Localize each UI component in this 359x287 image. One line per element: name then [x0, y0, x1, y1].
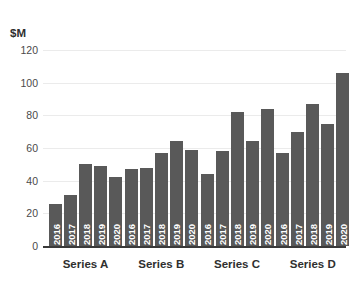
y-axis-tick-label: 120	[4, 44, 38, 56]
bar-year-label: 2020	[185, 224, 198, 245]
bar[interactable]: 2017	[216, 151, 229, 246]
bar[interactable]: 2020	[109, 177, 122, 246]
bar-year-label: 2019	[94, 224, 107, 245]
bar[interactable]: 2018	[155, 153, 168, 246]
bar[interactable]: 2020	[336, 73, 349, 246]
bar-year-label: 2016	[276, 224, 289, 245]
y-axis-tick-label: 60	[4, 142, 38, 154]
bar[interactable]: 2016	[201, 174, 214, 246]
bar[interactable]: 2016	[49, 204, 62, 246]
y-axis-tick-label: 40	[4, 175, 38, 187]
bar[interactable]: 2017	[291, 132, 304, 246]
bar-group: 20162017201820192020	[276, 50, 349, 246]
bar-year-label: 2020	[109, 224, 122, 245]
bar-year-label: 2018	[79, 224, 92, 245]
bar[interactable]: 2019	[170, 141, 183, 246]
bar-year-label: 2017	[291, 224, 304, 245]
bar-year-label: 2019	[246, 224, 259, 245]
group-label: Series D	[290, 258, 336, 270]
y-axis-tick-label: 80	[4, 109, 38, 121]
bar[interactable]: 2016	[125, 169, 138, 246]
bar[interactable]: 2017	[140, 168, 153, 246]
bar-year-label: 2018	[231, 224, 244, 245]
bar-year-label: 2020	[261, 224, 274, 245]
bar[interactable]: 2020	[261, 109, 274, 246]
bar-group: 20162017201820192020	[49, 50, 122, 246]
bar-year-label: 2019	[321, 224, 334, 245]
x-axis-baseline	[43, 246, 346, 248]
bar-year-label: 2017	[140, 224, 153, 245]
bar-year-label: 2018	[306, 224, 319, 245]
plot-area: 2016201720182019202020162017201820192020…	[43, 50, 346, 246]
bar[interactable]: 2016	[276, 153, 289, 246]
group-label: Series C	[214, 258, 260, 270]
bar-group: 20162017201820192020	[201, 50, 274, 246]
group-label: Series A	[63, 258, 109, 270]
bar-year-label: 2016	[125, 224, 138, 245]
bar-year-label: 2019	[170, 224, 183, 245]
bar[interactable]: 2019	[94, 166, 107, 246]
bar[interactable]: 2018	[306, 104, 319, 246]
bar-year-label: 2017	[64, 224, 77, 245]
y-axis-tick-label: 0	[4, 240, 38, 252]
bar[interactable]: 2019	[246, 141, 259, 246]
bar-year-label: 2016	[201, 224, 214, 245]
y-axis-tick-label: 20	[4, 207, 38, 219]
bar-group: 20162017201820192020	[125, 50, 198, 246]
bar[interactable]: 2018	[79, 164, 92, 246]
group-label: Series B	[138, 258, 184, 270]
bar-chart-figure: $M 120100806040200 201620172018201920202…	[0, 0, 359, 287]
bar[interactable]: 2019	[321, 124, 334, 247]
bar[interactable]: 2020	[185, 150, 198, 246]
y-axis-tick-label: 100	[4, 77, 38, 89]
bar-year-label: 2017	[216, 224, 229, 245]
bar-year-label: 2016	[49, 224, 62, 245]
bar-year-label: 2020	[336, 224, 349, 245]
y-axis-tick-labels: 120100806040200	[0, 0, 38, 287]
bar[interactable]: 2018	[231, 112, 244, 246]
bar-year-label: 2018	[155, 224, 168, 245]
bar[interactable]: 2017	[64, 195, 77, 246]
